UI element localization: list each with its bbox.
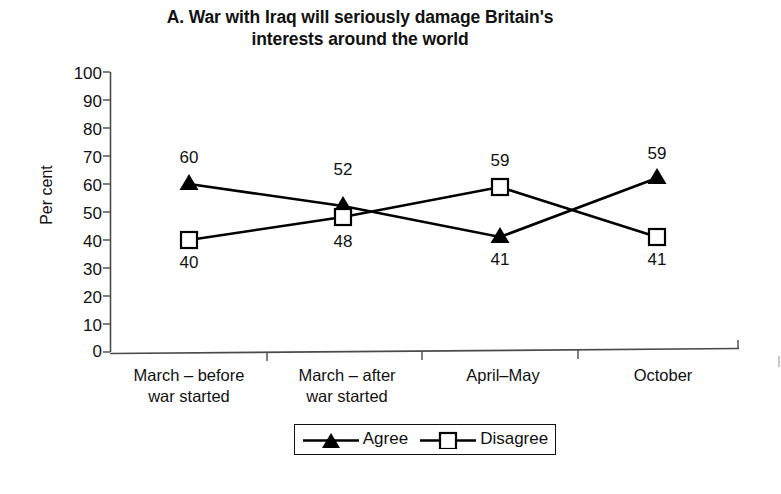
plot-area: [0, 0, 781, 494]
x-category-label-4-line-1: October: [578, 365, 748, 386]
value-label-disagree-4: 41: [635, 250, 679, 270]
value-label-agree-4: 59: [635, 144, 679, 164]
x-category-label-3: April–May: [418, 365, 588, 386]
series-markers-disagree: [181, 179, 665, 248]
value-label-agree-2: 52: [321, 160, 365, 180]
x-category-label-1-line-2: war started: [104, 386, 274, 407]
y-axis-ticks: [103, 72, 110, 352]
value-label-disagree-2: 48: [321, 232, 365, 252]
legend-label-disagree: Disagree: [480, 430, 548, 449]
x-axis-line: [110, 349, 739, 354]
legend-item-agree: Agree: [302, 430, 408, 449]
legend-marker-filled-triangle-icon: [302, 431, 360, 449]
x-category-label-2: March – after war started: [262, 365, 432, 408]
value-label-agree-1: 60: [167, 148, 211, 168]
value-label-agree-3: 41: [478, 250, 522, 270]
value-label-disagree-3: 59: [478, 151, 522, 171]
x-category-label-1-line-1: March – before: [104, 365, 274, 386]
legend-label-agree: Agree: [363, 430, 408, 449]
legend-item-disagree: Disagree: [419, 430, 548, 449]
x-category-label-2-line-2: war started: [262, 386, 432, 407]
legend-marker-open-square-icon: [419, 431, 477, 449]
chart-figure: A. War with Iraq will seriously damage B…: [0, 0, 781, 494]
x-category-label-3-line-1: April–May: [418, 365, 588, 386]
x-category-label-4: October: [578, 365, 748, 386]
x-category-label-1: March – before war started: [104, 365, 274, 408]
value-label-disagree-1: 40: [167, 253, 211, 273]
chart-legend: Agree Disagree: [294, 424, 556, 455]
x-category-label-2-line-1: March – after: [262, 365, 432, 386]
scan-edge-artifact: [778, 356, 780, 367]
series-line-agree: [189, 178, 657, 237]
